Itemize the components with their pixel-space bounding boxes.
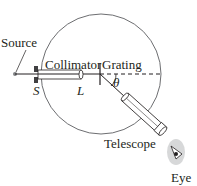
source-label: Source [1, 35, 37, 50]
eye-icon [167, 139, 185, 165]
lens-label: L [76, 83, 84, 98]
source-pointer [16, 50, 26, 72]
telescope [120, 92, 168, 137]
slit-label: S [33, 83, 40, 98]
grating-label: Grating [102, 57, 142, 72]
eye-label: Eye [171, 170, 191, 185]
collimator-label: Collimator [45, 57, 102, 72]
telescope-label: Telescope [104, 136, 156, 151]
spectrometer-diagram: Source Collimator Grating S L θ Telescop… [0, 0, 197, 186]
slit-top [34, 66, 38, 72]
angle-label: θ [113, 75, 120, 90]
